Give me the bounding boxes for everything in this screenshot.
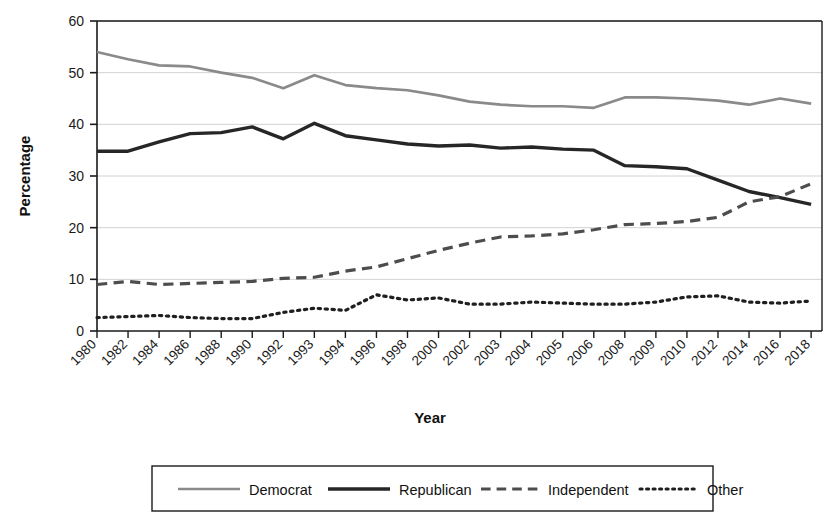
x-tick-label: 1984 (129, 336, 161, 368)
chart-legend: DemocratRepublicanIndependentOther (152, 466, 743, 511)
x-tick-label: 1998 (378, 337, 410, 369)
gridlines (97, 21, 822, 279)
y-axis-title: Percentage (16, 136, 33, 217)
x-tick-label: 1993 (285, 337, 317, 369)
y-tick-label: 0 (76, 323, 84, 339)
x-tick-label: 2016 (750, 337, 782, 369)
x-axis-title: Year (414, 409, 446, 426)
party-identification-line-chart: 0102030405060 19801982198419861988199019… (0, 0, 839, 530)
y-tick-label: 60 (68, 13, 84, 29)
legend-label-republican: Republican (399, 482, 472, 498)
data-series-layer (97, 52, 811, 319)
legend-label-other: Other (707, 482, 743, 498)
x-tick-label: 1982 (98, 337, 130, 369)
x-tick-label: 2014 (719, 336, 751, 368)
x-tick-label: 2018 (781, 337, 813, 369)
y-tick-label: 50 (68, 65, 84, 81)
y-tick-label: 30 (68, 168, 84, 184)
y-axis-ticks: 0102030405060 (68, 13, 97, 339)
x-tick-label: 1990 (223, 337, 255, 369)
x-tick-label: 2000 (409, 337, 441, 369)
x-axis-ticks: 1980198219841986198819901992199319941996… (67, 331, 813, 368)
y-tick-label: 10 (68, 271, 84, 287)
x-tick-label: 1992 (254, 337, 286, 369)
x-tick-label: 2005 (533, 337, 565, 369)
x-tick-label: 2008 (595, 337, 627, 369)
x-tick-label: 1980 (67, 337, 99, 369)
legend-label-democrat: Democrat (249, 482, 312, 498)
chart-container: 0102030405060 19801982198419861988199019… (0, 0, 839, 530)
x-tick-label: 1996 (347, 337, 379, 369)
series-line-democrat (97, 52, 811, 108)
y-tick-label: 40 (68, 116, 84, 132)
x-tick-label: 2003 (471, 337, 503, 369)
x-tick-label: 1994 (316, 336, 348, 368)
x-tick-label: 2012 (688, 337, 720, 369)
x-tick-label: 1988 (191, 337, 223, 369)
x-tick-label: 2004 (502, 336, 534, 368)
x-tick-label: 2010 (657, 337, 689, 369)
legend-label-independent: Independent (548, 482, 629, 498)
x-tick-label: 2006 (564, 337, 596, 369)
y-tick-label: 20 (68, 220, 84, 236)
series-line-other (97, 295, 811, 319)
x-tick-label: 2009 (626, 337, 658, 369)
series-line-republican (97, 123, 811, 204)
x-tick-label: 1986 (160, 337, 192, 369)
x-tick-label: 2002 (440, 337, 472, 369)
series-line-independent (97, 184, 811, 285)
